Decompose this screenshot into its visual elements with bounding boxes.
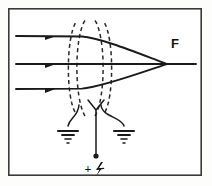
high-voltage-terminal [93, 153, 98, 158]
einzel-lens-diagram: F + [0, 0, 212, 186]
figure-border [9, 9, 201, 175]
polarity-sign-label: + [85, 162, 92, 176]
figure-root: F + [0, 0, 212, 186]
focal-point-label: F [171, 36, 179, 51]
